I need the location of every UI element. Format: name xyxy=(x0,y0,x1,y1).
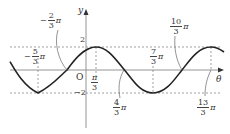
pi-symbol: π xyxy=(121,103,126,112)
numerator: 2 xyxy=(48,11,55,21)
numerator: 10 xyxy=(170,17,182,27)
x-axis-label: θ xyxy=(216,75,221,84)
denominator: 3 xyxy=(151,57,156,66)
leader-13-3pi xyxy=(205,70,211,96)
pi-symbol: π xyxy=(158,52,163,61)
origin-label: O xyxy=(76,73,83,82)
y-axis-label: y xyxy=(78,6,83,15)
y-axis-arrow-icon xyxy=(84,9,89,15)
minus-sign: − xyxy=(24,52,31,61)
denominator: 3 xyxy=(201,108,206,117)
label-7-3-pi: 73 π xyxy=(150,47,163,66)
numerator: 13 xyxy=(197,98,209,108)
label-pi-3: π3 xyxy=(91,73,98,92)
pi-symbol: π xyxy=(183,22,188,31)
pi-symbol: π xyxy=(56,16,61,25)
label-minus-2-3-pi: − 23 π xyxy=(40,11,61,30)
pi-symbol: π xyxy=(40,52,45,61)
denominator: 3 xyxy=(49,21,54,30)
leader-m2-3pi xyxy=(56,30,67,70)
denominator: 3 xyxy=(114,108,119,117)
label-minus-5-3-pi: − 53 π xyxy=(24,47,45,66)
y-tick-2: 2 xyxy=(80,36,85,44)
numerator: 5 xyxy=(32,47,39,57)
numerator: 7 xyxy=(150,47,157,57)
denominator: 3 xyxy=(33,57,38,66)
label-13-3-pi: 133 π xyxy=(197,98,215,117)
numerator: π xyxy=(91,73,98,83)
minus-sign: − xyxy=(40,16,47,25)
leader-4-3pi xyxy=(119,70,124,98)
pi-symbol: π xyxy=(210,103,215,112)
numerator: 4 xyxy=(113,98,120,108)
leader-10-3pi xyxy=(175,36,182,70)
denominator: 3 xyxy=(92,83,97,92)
y-tick-minus-2: −2 xyxy=(74,89,86,97)
x-axis-arrow-icon xyxy=(218,68,224,73)
label-4-3-pi: 43 π xyxy=(113,98,126,117)
label-10-3-pi: 103 π xyxy=(170,17,188,36)
denominator: 3 xyxy=(174,27,179,36)
